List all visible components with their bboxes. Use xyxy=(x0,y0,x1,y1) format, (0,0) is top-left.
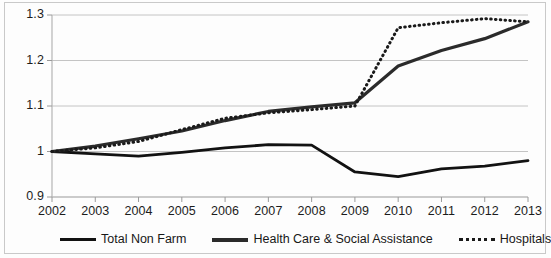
y-axis-tick-label: 1.1 xyxy=(10,98,44,112)
y-axis-tick-label: 1 xyxy=(10,144,44,158)
legend-label: Health Care & Social Assistance xyxy=(253,232,432,246)
solid-thick-line-icon xyxy=(212,233,248,245)
x-axis-tick-label: 2005 xyxy=(160,204,204,218)
series-line-health-care-social-assistance xyxy=(52,22,528,152)
dotted-line-icon xyxy=(459,233,495,245)
x-axis-tick-label: 2004 xyxy=(117,204,161,218)
data-series-group xyxy=(52,19,528,177)
x-axis-tick-label: 2012 xyxy=(463,204,507,218)
legend-entry[interactable]: Total Non Farm xyxy=(60,232,186,246)
series-line-total-non-farm xyxy=(52,145,528,177)
y-axis-tick-marks xyxy=(47,15,52,197)
x-axis-tick-label: 2008 xyxy=(290,204,334,218)
chart-legend: Total Non FarmHealth Care & Social Assis… xyxy=(60,228,530,250)
x-axis-tick-label: 2002 xyxy=(30,204,74,218)
gridlines xyxy=(52,15,528,197)
legend-entry[interactable]: Health Care & Social Assistance xyxy=(212,232,432,246)
x-axis-tick-label: 2013 xyxy=(506,204,550,218)
x-axis-tick-label: 2009 xyxy=(333,204,377,218)
x-axis-tick-label: 2011 xyxy=(419,204,463,218)
x-axis-tick-label: 2003 xyxy=(73,204,117,218)
solid-thin-line-icon xyxy=(60,233,96,245)
y-axis-tick-label: 1.2 xyxy=(10,53,44,67)
x-axis-tick-marks xyxy=(52,197,528,202)
legend-label: Hospitals xyxy=(500,232,551,246)
legend-entry[interactable]: Hospitals xyxy=(459,232,551,246)
y-axis-tick-label: 1.3 xyxy=(10,7,44,21)
x-axis-tick-label: 2006 xyxy=(203,204,247,218)
y-axis-tick-label: 0.9 xyxy=(10,189,44,203)
legend-label: Total Non Farm xyxy=(101,232,186,246)
series-line-hospitals xyxy=(52,19,528,152)
x-axis-tick-label: 2010 xyxy=(376,204,420,218)
x-axis-tick-label: 2007 xyxy=(246,204,290,218)
